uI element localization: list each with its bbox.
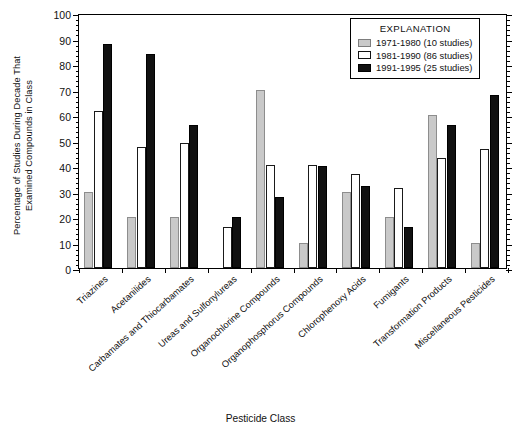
y-tick-right-minor [506,97,510,98]
y-tick-label: 50 [59,138,71,149]
y-tick-right-minor [506,51,510,52]
bar [256,90,265,269]
legend: EXPLANATION 1971-1980 (10 studies) 1981-… [350,18,480,79]
y-tick-major [73,219,79,220]
y-tick-right-minor [506,214,510,215]
y-tick-minor [76,102,80,103]
y-tick-right-minor [506,56,510,57]
y-tick-minor [76,122,80,123]
y-tick-right-minor [506,163,510,164]
y-tick-right-minor [506,127,510,128]
y-tick-right-minor [506,209,510,210]
y-tick-right-major [506,117,512,118]
y-tick-minor [76,173,80,174]
y-tick-minor [76,107,80,108]
bar [137,147,146,268]
y-tick-minor [76,71,80,72]
bar [103,44,112,268]
y-tick-minor [76,132,80,133]
y-axis-title-line-2: Examined Compounds in Class [23,55,35,234]
y-tick-major [73,15,79,16]
y-tick-label: 30 [59,189,71,200]
y-tick-right-minor [506,35,510,36]
y-tick-right-major [506,194,512,195]
y-tick-right-minor [506,20,510,21]
y-tick-major [73,194,79,195]
y-tick-right-minor [506,122,510,123]
y-tick-right-minor [506,76,510,77]
y-tick-right-minor [506,178,510,179]
y-tick-minor [76,209,80,210]
y-tick-minor [76,183,80,184]
y-tick-right-minor [506,188,510,189]
y-tick-minor [76,20,80,21]
y-tick-right-minor [506,86,510,87]
y-tick-right-minor [506,173,510,174]
legend-swatch-1991-1995 [358,64,371,72]
y-tick-right-minor [506,204,510,205]
y-axis-title: Percentage of Studies During Decade That… [0,0,46,290]
y-tick-minor [76,61,80,62]
y-tick-right-major [506,15,512,16]
y-tick-minor [76,188,80,189]
y-tick-right-minor [506,250,510,251]
y-tick-right-minor [506,71,510,72]
y-tick-label: 90 [59,36,71,47]
y-tick-major [73,66,79,67]
legend-label-1991-1995: 1991-1995 (25 studies) [376,62,472,73]
y-tick-minor [76,30,80,31]
y-tick-minor [76,148,80,149]
y-tick-major [73,92,79,93]
bar-group [165,15,208,268]
y-tick-minor [76,204,80,205]
y-tick-minor [76,229,80,230]
y-tick-minor [76,178,80,179]
bar [84,192,93,269]
y-tick-label: 0 [65,265,71,276]
y-tick-right-minor [506,112,510,113]
y-tick-right-minor [506,30,510,31]
legend-swatch-1981-1990 [358,51,371,59]
legend-swatch-1971-1980 [358,39,371,47]
y-tick-major [73,168,79,169]
y-tick-minor [76,81,80,82]
x-axis-title: Pesticide Class [0,413,521,424]
bar [146,54,155,268]
y-tick-right-major [506,168,512,169]
y-tick-right-major [506,41,512,42]
y-tick-minor [76,56,80,57]
y-tick-minor [76,214,80,215]
y-tick-label: 40 [59,163,71,174]
y-tick-minor [76,76,80,77]
y-tick-right-minor [506,107,510,108]
y-tick-right-minor [506,25,510,26]
y-tick-minor [76,163,80,164]
y-tick-minor [76,97,80,98]
y-tick-label: 80 [59,61,71,72]
y-tick-right-major [506,66,512,67]
bar-group [79,15,122,268]
y-tick-right-major [506,245,512,246]
y-tick-minor [76,199,80,200]
bar [94,111,103,268]
y-tick-right-minor [506,234,510,235]
legend-item-1991-1995: 1991-1995 (25 studies) [358,62,472,73]
y-tick-right-minor [506,199,510,200]
y-tick-major [73,245,79,246]
y-tick-right-minor [506,239,510,240]
y-tick-minor [76,127,80,128]
y-tick-minor [76,255,80,256]
y-tick-minor [76,158,80,159]
y-tick-label: 10 [59,240,71,251]
y-tick-label: 60 [59,112,71,123]
y-tick-major [73,117,79,118]
y-tick-minor [76,234,80,235]
y-tick-minor [76,86,80,87]
y-tick-minor [76,239,80,240]
y-tick-right-minor [506,132,510,133]
bar [318,166,327,268]
y-tick-minor [76,51,80,52]
y-tick-minor [76,25,80,26]
y-tick-label: 70 [59,87,71,98]
bar-group [122,15,165,268]
